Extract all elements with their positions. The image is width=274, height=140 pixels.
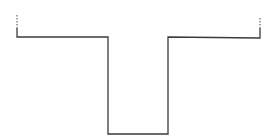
t-profile-outline xyxy=(17,28,260,134)
t-profile-diagram xyxy=(0,0,274,140)
